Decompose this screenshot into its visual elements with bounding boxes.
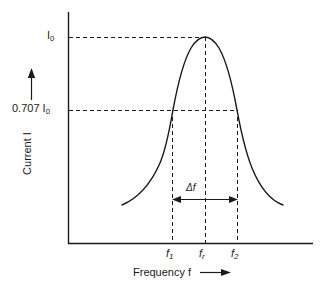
y-tick-i0-sub: 0 (50, 34, 54, 43)
x-tick-f1-sub: 1 (169, 252, 173, 261)
y-tick-half-i0-main: 0.707 I (12, 102, 46, 114)
bandwidth-arrow-head-left (172, 196, 181, 203)
resonance-curve-svg (0, 0, 336, 289)
y-tick-half-i0-sub: 0 (46, 107, 50, 116)
x-tick-f2-sub: 2 (234, 252, 238, 261)
x-axis-title: Frequency f (133, 267, 191, 278)
y-axis-arrow-head (28, 68, 35, 78)
y-axis-title: Current I (22, 114, 33, 194)
x-tick-fr-sub: r (202, 252, 205, 261)
x-tick-label-fr: fr (199, 248, 205, 261)
x-tick-label-f1: f1 (166, 248, 173, 261)
resonance-curve-figure: I0 0.707 I0 Current I Frequency f f1 fr … (0, 0, 336, 289)
x-tick-label-f2: f2 (231, 248, 238, 261)
resonance-curve-path (122, 37, 283, 205)
bandwidth-label: Δf (186, 183, 196, 193)
x-axis-arrow-head (221, 269, 231, 276)
y-tick-label-i0: I0 (47, 30, 54, 43)
bandwidth-arrow-head-right (229, 196, 238, 203)
